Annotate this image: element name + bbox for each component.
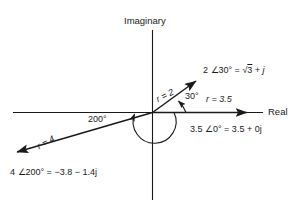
angle-arc-200 <box>133 113 176 144</box>
angle-30-label: 30° <box>185 92 199 101</box>
complex-plane-figure: Imaginary Real 200° 30° r = 2 r = 4 r = … <box>0 0 301 212</box>
angle-arc-30 <box>179 101 187 113</box>
equation-2-at-30-head: 2 ∠30° = <box>203 65 242 75</box>
equation-2-at-30-tail: + j <box>252 65 264 75</box>
angle-200-label: 200° <box>88 115 107 124</box>
real-axis-label: Real <box>268 107 288 117</box>
figure-canvas <box>0 0 301 212</box>
imaginary-axis-label: Imaginary <box>124 16 166 26</box>
radius-3p5-label: r = 3.5 <box>206 95 232 104</box>
equation-4-at-200: 4 ∠200° = −3.8 − 1.4j <box>10 168 97 177</box>
equation-3p5-at-0: 3.5 ∠0° = 3.5 + 0j <box>190 125 262 134</box>
equation-2-at-30: 2 ∠30° = √3 + j <box>203 66 265 75</box>
